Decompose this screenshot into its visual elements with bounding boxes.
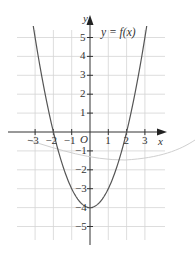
origin-label: O — [80, 134, 88, 145]
x-tick-label: −1 — [64, 135, 76, 146]
y-tick-label: −2 — [75, 164, 87, 175]
y-tick-label: 3 — [80, 69, 86, 80]
y-tick-label: −1 — [75, 145, 87, 156]
y-axis-label: y — [83, 13, 88, 24]
x-tick-label: −3 — [27, 135, 39, 146]
x-tick-label: −2 — [45, 135, 57, 146]
y-tick-label: 2 — [80, 88, 86, 99]
y-tick-label: 1 — [80, 107, 86, 118]
function-graph — [0, 0, 195, 255]
y-tick-label: −5 — [75, 221, 87, 232]
y-tick-label: 4 — [80, 50, 86, 61]
x-tick-label: 3 — [142, 135, 148, 146]
y-tick-label: −4 — [75, 202, 87, 213]
x-axis-label: x — [158, 136, 163, 147]
x-tick-label: 2 — [124, 135, 130, 146]
y-tick-label: −3 — [75, 183, 87, 194]
function-annotation: y = f(x) — [101, 27, 136, 39]
x-tick-label: 1 — [105, 135, 111, 146]
y-tick-label: 5 — [80, 32, 86, 43]
